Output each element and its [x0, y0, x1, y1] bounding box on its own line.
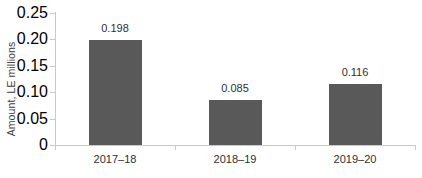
y-axis-tick-label: 0.15 [16, 60, 48, 72]
x-axis-tick [415, 145, 416, 150]
x-axis-tick [175, 145, 176, 150]
bar-chart: Amount, LE millions 00.050.100.150.200.2… [0, 0, 422, 178]
y-axis-tick-label: 0.05 [16, 113, 48, 125]
y-axis-tick-label: 0.25 [16, 7, 48, 19]
x-axis-category-label: 2018–19 [185, 154, 285, 165]
y-axis-tick-label-text: 0.05 [17, 110, 48, 128]
y-axis-tick-label-text: 0 [39, 136, 48, 154]
bar [209, 100, 262, 145]
bar [329, 84, 382, 145]
bar-value-label: 0.116 [315, 67, 395, 78]
bar [89, 40, 142, 145]
x-axis-category-label: 2019–20 [305, 154, 405, 165]
bar-value-label: 0.198 [75, 23, 155, 34]
x-axis-tick [295, 145, 296, 150]
y-axis-tick-label-text: 0.10 [17, 83, 48, 101]
y-axis-tick-label: 0.10 [16, 86, 48, 98]
y-axis-tick-label-text: 0.20 [17, 30, 48, 48]
y-axis-tick-label-text: 0.25 [17, 4, 48, 22]
x-axis-line [55, 145, 415, 146]
x-axis-category-label: 2017–18 [65, 154, 165, 165]
x-axis-tick [55, 145, 56, 150]
y-axis-tick-label: 0.20 [16, 33, 48, 45]
bar-value-label: 0.085 [195, 83, 275, 94]
y-axis-tick-label: 0 [16, 139, 48, 151]
y-axis-tick-label-text: 0.15 [17, 57, 48, 75]
